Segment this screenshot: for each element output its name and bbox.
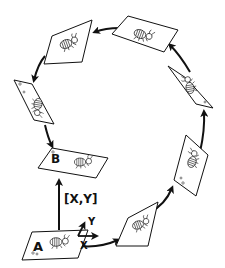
frame-5	[44, 20, 92, 64]
axis-x-label: X	[80, 241, 88, 251]
frame-4	[112, 16, 178, 52]
frame-b	[38, 148, 108, 178]
axis-y-label: Y	[88, 217, 95, 227]
frame-loop-diagram	[0, 0, 225, 268]
frame-2	[174, 135, 208, 196]
frame-b-label: B	[51, 153, 60, 165]
frame-6	[14, 80, 54, 124]
frame-3	[168, 66, 213, 108]
frame-1	[116, 202, 158, 246]
displacement-label: [X,Y]	[64, 193, 97, 205]
frame-a-label: A	[33, 240, 43, 253]
